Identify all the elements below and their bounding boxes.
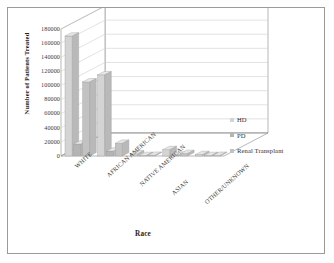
legend-item[interactable]: HD: [230, 116, 324, 123]
bar-african-american-renal-transplant-front: [115, 143, 122, 156]
y-tick-label: 20000: [16, 139, 60, 145]
y-axis-tick-labels: 1800001600001400001200001000008000060000…: [12, 8, 60, 255]
legend-label: HD: [237, 116, 247, 123]
bar-white-renal-transplant-front: [83, 82, 90, 156]
back-wall: [105, 8, 268, 133]
legend-label: Renal Transplant: [237, 147, 283, 154]
bar-white-hd-side: [72, 33, 79, 156]
bar-white-renal-transplant-side: [90, 79, 97, 156]
legend-item[interactable]: PD: [230, 132, 324, 139]
bar-other-unknown-hd-front: [195, 155, 202, 156]
figure-container: 1800001600001400001200001000008000060000…: [0, 0, 334, 263]
bar-african-american-pd-front: [106, 151, 113, 156]
legend-swatch-icon: [230, 118, 234, 122]
plot-area: 1800001600001400001200001000008000060000…: [8, 8, 326, 255]
y-axis-title: Number of Patients Treated: [23, 14, 30, 134]
bar-african-american-hd-front: [98, 75, 105, 156]
chart-legend: HDPDRenal Transplant: [230, 116, 324, 163]
bar-white-pd-front: [74, 144, 81, 156]
bar-white-hd-front: [65, 36, 72, 156]
y-tick-label: 0: [16, 153, 60, 159]
legend-label: PD: [237, 132, 246, 139]
legend-swatch-icon: [230, 149, 234, 153]
bar-asian-renal-transplant-front: [180, 154, 187, 156]
x-axis-title: Race: [68, 230, 218, 238]
legend-swatch-icon: [230, 133, 234, 137]
chart-frame: 1800001600001400001200001000008000060000…: [7, 7, 325, 254]
legend-item[interactable]: Renal Transplant: [230, 147, 324, 154]
bar-african-american-hd-side: [105, 71, 112, 156]
